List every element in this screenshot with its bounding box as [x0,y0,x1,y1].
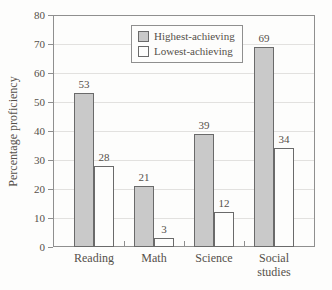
legend-label-highest-achieving: Highest-achieving [154,30,235,43]
y-tick-label-40: 40 [15,125,45,138]
y-tick-30 [48,160,53,161]
bar-chart-figure: 532139692831234 Percentage proficiency 0… [0,0,332,290]
y-tick-70 [48,44,53,45]
y-tick-label-10: 10 [15,212,45,225]
legend-swatch-lowest-achieving [138,46,149,57]
x-tick-2 [244,241,245,246]
y-tick-60 [48,73,53,74]
y-tick-20 [48,189,53,190]
y-tick-40 [48,131,53,132]
y-tick-label-50: 50 [15,96,45,109]
y-tick-10 [48,218,53,219]
legend-label-lowest-achieving: Lowest-achieving [154,45,233,58]
y-tick-0 [48,247,53,248]
y-tick-label-60: 60 [15,67,45,80]
legend-row-highest-achieving: Highest-achieving [138,30,235,43]
category-label-line: studies [239,265,309,279]
category-label-line: Social [239,251,309,265]
legend-row-lowest-achieving: Lowest-achieving [138,45,235,58]
y-tick-label-0: 0 [15,241,45,254]
y-tick-50 [48,102,53,103]
x-tick-0 [124,241,125,246]
y-tick-label-30: 30 [15,154,45,167]
x-tick-1 [184,241,185,246]
category-label-social-studies: Socialstudies [239,251,309,279]
y-tick-label-80: 80 [15,9,45,22]
legend-swatch-highest-achieving [138,31,149,42]
y-tick-80 [48,15,53,16]
y-tick-label-70: 70 [15,38,45,51]
y-tick-label-20: 20 [15,183,45,196]
legend: Highest-achievingLowest-achieving [131,25,243,63]
